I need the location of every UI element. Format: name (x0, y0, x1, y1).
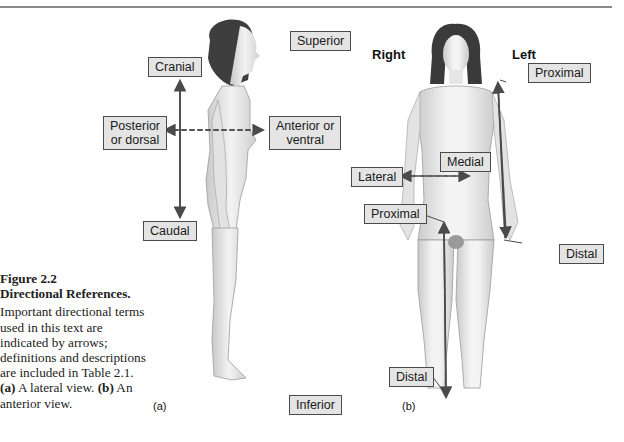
label-posterior: Posterior or dorsal (103, 116, 167, 150)
side-label-right: Right (372, 47, 405, 62)
view-tag-a: (a) (153, 400, 166, 412)
figure-caption: Figure 2.2 Directional References. Impor… (0, 271, 150, 411)
label-cranial: Cranial (148, 57, 202, 77)
label-lateral: Lateral (351, 167, 403, 187)
caption-body: Important directional terms used in this… (0, 304, 146, 380)
lateral-view-figure (206, 19, 260, 380)
label-anterior-line1: Anterior or (276, 119, 334, 133)
label-caudal: Caudal (143, 221, 197, 241)
label-anterior-line2: ventral (286, 133, 324, 147)
label-proximal-leg: Proximal (364, 204, 427, 224)
view-tag-b: (b) (402, 400, 415, 412)
label-posterior-line2: or dorsal (111, 133, 160, 147)
caption-part-a-tag: (a) (0, 380, 15, 395)
label-distal-arm: Distal (559, 244, 604, 264)
label-proximal-arm: Proximal (528, 63, 591, 83)
caption-part-b-tag: (b) (98, 380, 114, 395)
side-label-left: Left (512, 47, 536, 62)
caption-part-a-text: A lateral view. (15, 380, 97, 395)
label-inferior: Inferior (289, 395, 342, 415)
figure-number: Figure 2.2 (0, 271, 150, 286)
label-posterior-line1: Posterior (110, 119, 160, 133)
label-anterior: Anterior or ventral (269, 116, 341, 150)
label-distal-leg: Distal (389, 367, 434, 387)
label-medial: Medial (440, 152, 491, 172)
label-superior: Superior (290, 31, 351, 51)
figure-title: Directional References. (0, 286, 150, 301)
